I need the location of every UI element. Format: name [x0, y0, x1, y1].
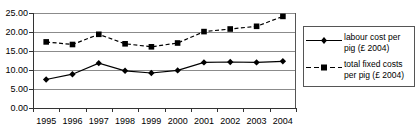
- y-axis-tick: [29, 70, 34, 71]
- x-axis-tick-label: 1995: [36, 116, 56, 126]
- chart-legend: labour cost per pig (£ 2004) total fixed…: [303, 26, 415, 87]
- y-axis-tick-label: 5.00: [10, 85, 28, 94]
- y-axis-tick: [29, 13, 34, 14]
- gridline: [34, 32, 295, 33]
- y-axis-tick-label: 15.00: [5, 47, 28, 56]
- x-axis-tick-label: 2003: [247, 116, 267, 126]
- y-axis-tick-label: 0.00: [10, 104, 28, 113]
- x-axis-tick-label: 1996: [62, 116, 82, 126]
- legend-label-labour-cost: labour cost per pig (£ 2004): [344, 32, 400, 54]
- y-axis-tick: [29, 51, 34, 52]
- y-axis-tick-label: 20.00: [5, 28, 28, 37]
- x-axis-tick: [112, 108, 113, 112]
- x-axis-tick: [138, 108, 139, 112]
- legend-label-total-fixed-costs: total fixed costs per pig (£ 2004): [344, 59, 404, 81]
- x-axis-tick: [270, 108, 271, 112]
- x-axis-tick-label: 1999: [141, 116, 161, 126]
- x-axis-tick-label: 2000: [168, 116, 188, 126]
- plot-area: [33, 13, 296, 108]
- diamond-marker-icon: [304, 32, 344, 43]
- gridline: [34, 51, 295, 52]
- x-axis-tick: [191, 108, 192, 112]
- x-axis-tick: [33, 108, 34, 112]
- y-axis-tick-label: 25.00: [5, 9, 28, 18]
- y-axis-tick: [29, 89, 34, 90]
- gridline: [34, 89, 295, 90]
- x-axis-tick-label: 2004: [273, 116, 293, 126]
- x-axis-tick: [86, 108, 87, 112]
- x-axis-tick-label: 2001: [194, 116, 214, 126]
- x-axis-tick: [59, 108, 60, 112]
- x-axis-tick-label: 1998: [115, 116, 135, 126]
- legend-entry-labour-cost: labour cost per pig (£ 2004): [304, 32, 416, 54]
- x-axis-tick: [296, 108, 297, 112]
- legend-entry-total-fixed-costs: total fixed costs per pig (£ 2004): [304, 59, 416, 81]
- gridline: [34, 70, 295, 71]
- y-axis-tick-label: 10.00: [5, 66, 28, 75]
- x-axis-tick: [243, 108, 244, 112]
- gridline: [34, 13, 295, 14]
- y-axis-tick: [29, 32, 34, 33]
- x-axis-tick-label: 2002: [220, 116, 240, 126]
- x-axis-tick-label: 1997: [89, 116, 109, 126]
- x-axis-tick: [165, 108, 166, 112]
- x-axis-tick: [217, 108, 218, 112]
- square-marker-icon: [304, 59, 344, 70]
- line-chart: 0.005.0010.0015.0020.0025.00 labour cost…: [0, 0, 419, 139]
